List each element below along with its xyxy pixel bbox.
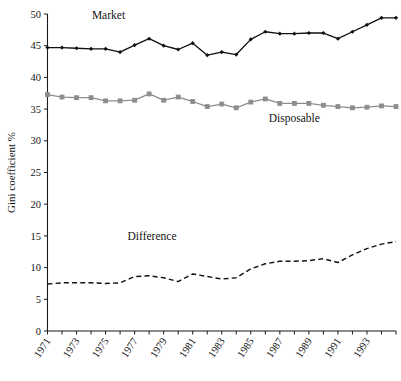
data-point-disposable bbox=[104, 99, 108, 103]
data-point-disposable bbox=[249, 100, 253, 104]
series-difference bbox=[48, 242, 397, 284]
x-tick-labels: 1971197319751977197919811983198519871989… bbox=[32, 336, 372, 360]
y-tick-label: 0 bbox=[36, 326, 41, 337]
data-point-market bbox=[220, 50, 224, 54]
data-point-disposable bbox=[234, 106, 238, 110]
y-tick-label: 5 bbox=[36, 294, 41, 305]
y-tick-label: 10 bbox=[31, 262, 42, 273]
data-point-market bbox=[103, 47, 107, 51]
data-point-disposable bbox=[321, 103, 325, 107]
series-line-market bbox=[48, 18, 397, 55]
data-point-market bbox=[379, 16, 383, 20]
x-tick-label: 1991 bbox=[322, 336, 343, 360]
x-tick-label: 1985 bbox=[235, 336, 256, 360]
data-point-disposable bbox=[191, 100, 195, 104]
y-axis-title: Gini coefficient % bbox=[5, 132, 17, 213]
data-point-disposable bbox=[380, 104, 384, 108]
data-point-market bbox=[321, 31, 325, 35]
series-label-market: Market bbox=[92, 9, 126, 21]
x-tick-label: 1981 bbox=[177, 336, 198, 360]
data-point-disposable bbox=[278, 101, 282, 105]
data-point-market bbox=[336, 37, 340, 41]
data-point-disposable bbox=[365, 105, 369, 109]
data-point-market bbox=[89, 47, 93, 51]
data-point-disposable bbox=[220, 102, 224, 106]
y-tick-labels: 05101520253035404550 bbox=[31, 9, 42, 337]
gini-coefficient-chart: 05101520253035404550 1971197319751977197… bbox=[0, 0, 401, 381]
x-tick-label: 1993 bbox=[351, 336, 372, 360]
data-point-market bbox=[60, 46, 64, 50]
data-point-disposable bbox=[263, 97, 267, 101]
data-point-disposable bbox=[205, 105, 209, 109]
y-tick-label: 15 bbox=[31, 231, 42, 242]
data-point-disposable bbox=[394, 105, 398, 109]
series-label-disposable: Disposable bbox=[269, 112, 320, 125]
data-point-market bbox=[147, 37, 151, 41]
series-label-difference: Difference bbox=[128, 230, 177, 242]
y-tick-label: 20 bbox=[31, 199, 42, 210]
x-tick-label: 1971 bbox=[32, 336, 53, 360]
series-line-difference bbox=[48, 242, 397, 284]
data-point-market bbox=[162, 44, 166, 48]
data-point-market bbox=[278, 32, 282, 36]
data-point-disposable bbox=[176, 95, 180, 99]
y-tick-label: 35 bbox=[31, 104, 42, 115]
data-point-disposable bbox=[351, 106, 355, 110]
x-tick-label: 1989 bbox=[293, 336, 314, 360]
x-tick-label: 1977 bbox=[119, 336, 140, 360]
data-point-disposable bbox=[118, 99, 122, 103]
data-point-market bbox=[307, 31, 311, 35]
x-tick-label: 1987 bbox=[264, 336, 285, 360]
x-axis-group: 1971197319751977197919811983198519871989… bbox=[32, 331, 396, 360]
x-tick-label: 1975 bbox=[90, 336, 111, 360]
x-tick-label: 1979 bbox=[148, 336, 169, 360]
series-disposable bbox=[46, 92, 398, 110]
data-point-disposable bbox=[75, 96, 79, 100]
data-point-market bbox=[74, 46, 78, 50]
chart-canvas: 05101520253035404550 1971197319751977197… bbox=[0, 0, 401, 381]
series-annotations: MarketDisposableDifference bbox=[92, 9, 320, 242]
data-point-disposable bbox=[89, 96, 93, 100]
data-point-market bbox=[176, 47, 180, 51]
data-point-market bbox=[394, 16, 398, 20]
x-tick-label: 1973 bbox=[61, 336, 82, 360]
data-point-disposable bbox=[147, 92, 151, 96]
data-point-market bbox=[133, 43, 137, 47]
data-point-disposable bbox=[60, 95, 64, 99]
x-tick-label: 1983 bbox=[206, 336, 227, 360]
data-point-market bbox=[118, 50, 122, 54]
data-point-disposable bbox=[292, 101, 296, 105]
y-axis-group: 05101520253035404550 bbox=[31, 9, 48, 337]
y-tick-label: 30 bbox=[31, 135, 42, 146]
data-point-market bbox=[365, 23, 369, 27]
y-tick-label: 40 bbox=[31, 72, 42, 83]
series-market bbox=[45, 16, 398, 58]
y-tick-label: 50 bbox=[31, 9, 42, 20]
data-point-market bbox=[350, 30, 354, 34]
data-point-disposable bbox=[162, 98, 166, 102]
data-point-disposable bbox=[307, 101, 311, 105]
series-layer bbox=[45, 16, 398, 284]
y-tick-label: 25 bbox=[31, 167, 42, 178]
data-point-disposable bbox=[46, 93, 50, 97]
y-tick-label: 45 bbox=[31, 40, 42, 51]
data-point-disposable bbox=[133, 98, 137, 102]
data-point-disposable bbox=[336, 105, 340, 109]
data-point-market bbox=[292, 32, 296, 36]
